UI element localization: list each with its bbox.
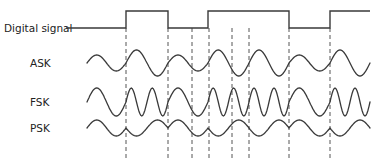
label-ask: ASK bbox=[30, 57, 52, 69]
modulation-diagram: Digital signal ASK FSK PSK bbox=[0, 0, 389, 165]
fsk-waveform bbox=[87, 88, 370, 116]
label-digital-signal: Digital signal bbox=[4, 22, 72, 34]
label-fsk: FSK bbox=[30, 96, 51, 108]
psk-waveform bbox=[87, 120, 370, 136]
label-psk: PSK bbox=[30, 122, 51, 134]
dashed-guides bbox=[126, 28, 330, 158]
ask-waveform bbox=[87, 50, 370, 76]
digital-signal-trace bbox=[66, 11, 370, 28]
